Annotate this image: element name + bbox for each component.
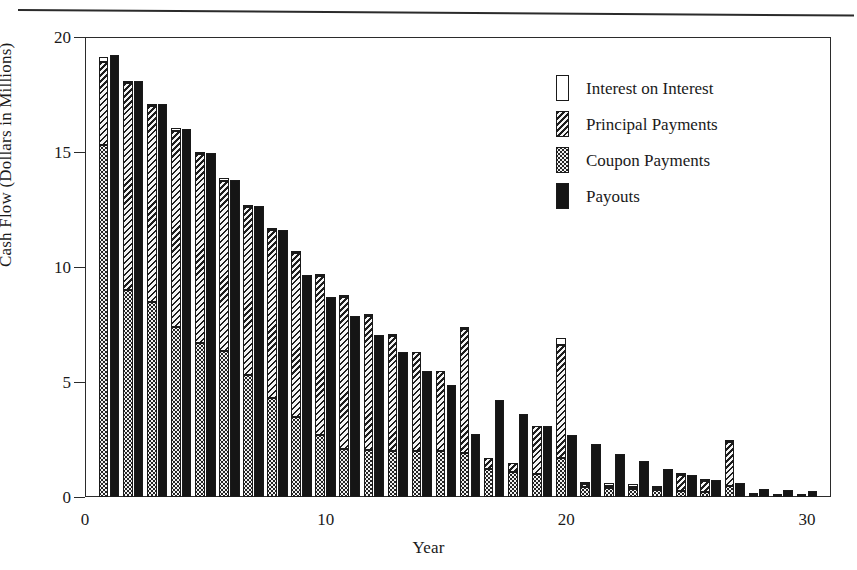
segment-white-year-13 bbox=[388, 334, 398, 336]
payout-bar-year-20[interactable] bbox=[567, 435, 577, 497]
payout-bar-year-5[interactable] bbox=[206, 153, 216, 497]
year-group-1 bbox=[97, 37, 121, 497]
segment-dot-year-18 bbox=[508, 472, 518, 497]
segment-white-year-6 bbox=[219, 178, 229, 180]
year-group-2 bbox=[121, 37, 145, 497]
segment-white-year-27 bbox=[725, 440, 735, 442]
segment-white-year-11 bbox=[339, 295, 349, 297]
inflow-bar-year-20[interactable] bbox=[556, 338, 566, 497]
inflow-bar-year-12[interactable] bbox=[364, 315, 374, 497]
payout-bar-year-7[interactable] bbox=[254, 206, 264, 497]
payout-bar-year-21[interactable] bbox=[591, 444, 601, 497]
inflow-bar-year-22[interactable] bbox=[604, 483, 614, 497]
legend-swatch-dot-icon bbox=[556, 147, 569, 173]
inflow-bar-year-8[interactable] bbox=[267, 229, 277, 497]
payout-bar-year-1[interactable] bbox=[110, 55, 120, 497]
payout-bar-year-22[interactable] bbox=[615, 454, 625, 497]
inflow-bar-year-30[interactable] bbox=[797, 495, 807, 497]
segment-white-year-12 bbox=[364, 314, 374, 316]
payout-bar-year-11[interactable] bbox=[350, 316, 360, 497]
year-group-10 bbox=[314, 37, 338, 497]
segment-dot-year-24 bbox=[652, 490, 662, 497]
inflow-bar-year-4[interactable] bbox=[171, 128, 181, 497]
segment-hatch-year-9 bbox=[291, 253, 301, 416]
legend-item-payout[interactable]: Payouts bbox=[556, 178, 806, 214]
inflow-bar-year-27[interactable] bbox=[725, 441, 735, 497]
inflow-bar-year-18[interactable] bbox=[508, 463, 518, 498]
year-group-15 bbox=[434, 37, 458, 497]
y-tick-label: 15 bbox=[54, 144, 71, 161]
payout-bar-year-19[interactable] bbox=[543, 426, 553, 497]
segment-dot-year-4 bbox=[171, 327, 181, 497]
year-group-3 bbox=[145, 37, 169, 497]
inflow-bar-year-15[interactable] bbox=[436, 371, 446, 498]
payout-bar-year-25[interactable] bbox=[687, 475, 697, 497]
payout-bar-year-30[interactable] bbox=[808, 491, 818, 497]
inflow-bar-year-21[interactable] bbox=[580, 482, 590, 497]
inflow-bar-year-14[interactable] bbox=[412, 352, 422, 497]
payout-bar-year-16[interactable] bbox=[471, 434, 481, 497]
inflow-bar-year-28[interactable] bbox=[749, 494, 759, 497]
inflow-bar-year-17[interactable] bbox=[484, 458, 494, 497]
segment-hatch-year-17 bbox=[484, 458, 494, 470]
segment-dot-year-9 bbox=[291, 417, 301, 498]
payout-bar-year-27[interactable] bbox=[735, 483, 745, 497]
inflow-bar-year-24[interactable] bbox=[652, 487, 662, 497]
payout-bar-year-13[interactable] bbox=[398, 352, 408, 497]
inflow-bar-year-23[interactable] bbox=[628, 484, 638, 497]
inflow-bar-year-9[interactable] bbox=[291, 252, 301, 497]
inflow-bar-year-13[interactable] bbox=[388, 335, 398, 497]
payout-bar-year-6[interactable] bbox=[230, 180, 240, 497]
payout-bar-year-28[interactable] bbox=[759, 489, 769, 497]
segment-dot-year-21 bbox=[580, 487, 590, 497]
segment-dot-year-14 bbox=[412, 451, 422, 497]
segment-dot-year-17 bbox=[484, 469, 494, 497]
payout-bar-year-12[interactable] bbox=[374, 335, 384, 497]
inflow-bar-year-1[interactable] bbox=[99, 57, 109, 497]
inflow-bar-year-26[interactable] bbox=[700, 480, 710, 497]
y-tick-label: 20 bbox=[54, 29, 71, 46]
payout-bar-year-14[interactable] bbox=[422, 371, 432, 498]
payout-bar-year-10[interactable] bbox=[326, 297, 336, 497]
payout-bar-year-8[interactable] bbox=[278, 230, 288, 497]
year-group-19 bbox=[530, 37, 554, 497]
segment-hatch-year-12 bbox=[364, 316, 374, 449]
payout-bar-year-17[interactable] bbox=[495, 400, 505, 497]
segment-hatch-year-5 bbox=[195, 154, 205, 343]
payout-bar-year-23[interactable] bbox=[639, 461, 649, 497]
payout-bar-year-3[interactable] bbox=[158, 104, 168, 497]
segment-hatch-year-2 bbox=[123, 83, 133, 290]
segment-white-year-25 bbox=[676, 473, 686, 475]
payout-bar-year-18[interactable] bbox=[519, 414, 529, 497]
inflow-bar-year-7[interactable] bbox=[243, 206, 253, 497]
payout-bar-year-9[interactable] bbox=[302, 275, 312, 497]
inflow-bar-year-11[interactable] bbox=[339, 296, 349, 497]
inflow-bar-year-29[interactable] bbox=[773, 495, 783, 497]
inflow-bar-year-2[interactable] bbox=[123, 81, 133, 497]
inflow-bar-year-16[interactable] bbox=[460, 327, 470, 497]
inflow-bar-year-19[interactable] bbox=[532, 426, 542, 497]
inflow-bar-year-5[interactable] bbox=[195, 152, 205, 497]
legend-label: Coupon Payments bbox=[586, 152, 710, 169]
inflow-bar-year-3[interactable] bbox=[147, 105, 157, 497]
inflow-bar-year-6[interactable] bbox=[219, 178, 229, 497]
payout-bar-year-29[interactable] bbox=[783, 490, 793, 497]
segment-dot-year-22 bbox=[604, 488, 614, 497]
payout-bar-year-26[interactable] bbox=[711, 480, 721, 497]
payout-bar-year-15[interactable] bbox=[447, 385, 457, 497]
y-tick-label: 5 bbox=[63, 374, 72, 391]
payout-bar-year-24[interactable] bbox=[663, 469, 673, 497]
legend-item-dot[interactable]: Coupon Payments bbox=[556, 142, 806, 178]
segment-white-year-4 bbox=[171, 128, 181, 131]
year-group-14 bbox=[410, 37, 434, 497]
payout-bar-year-4[interactable] bbox=[182, 129, 192, 497]
legend-item-hatch[interactable]: Principal Payments bbox=[556, 106, 806, 142]
x-axis-title: Year bbox=[0, 538, 857, 558]
inflow-bar-year-10[interactable] bbox=[315, 275, 325, 497]
segment-hatch-year-19 bbox=[532, 426, 542, 474]
inflow-bar-year-25[interactable] bbox=[676, 474, 686, 497]
segment-hatch-year-16 bbox=[460, 329, 470, 453]
payout-bar-year-2[interactable] bbox=[134, 81, 144, 497]
legend-item-white[interactable]: Interest on Interest bbox=[556, 70, 806, 106]
segment-white-year-24 bbox=[652, 486, 662, 488]
